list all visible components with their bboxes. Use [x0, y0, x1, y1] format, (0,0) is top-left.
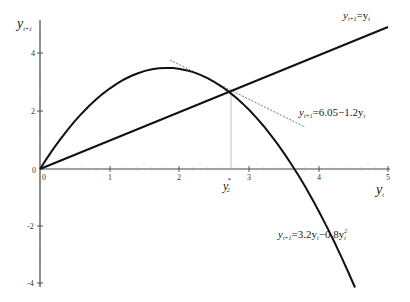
x-tick-4: 4: [317, 173, 321, 182]
x-tick-3: 3: [247, 173, 251, 182]
y-tick-2: 2: [31, 107, 35, 116]
y-tick-neg2: -2: [27, 222, 34, 231]
x-tick-5: 5: [386, 173, 390, 182]
fixed-point-label: y*2: [222, 176, 231, 193]
y-tick-4: 4: [31, 49, 35, 58]
map-equation: yt+1=3.2yt−0.8y2t: [277, 228, 347, 241]
x-tick-1: 1: [108, 173, 112, 182]
identity-line: [40, 27, 388, 169]
x-tick-0: 0: [42, 173, 46, 182]
x-axis-label: yt: [374, 182, 384, 198]
y-axis-label: yt+1: [15, 16, 32, 32]
x-tick-2: 2: [177, 173, 181, 182]
cobweb-chart: 0 0 1 2 3 4 5 4 2 -2 -4 yt+1 yt y*2 yt+1…: [0, 0, 410, 302]
y-tick-neg4: -4: [27, 279, 34, 288]
map-curve: [40, 68, 355, 288]
major-ticks: [37, 53, 388, 283]
identity-equation: yt+1=yt: [342, 9, 370, 22]
y-tick-0: 0: [32, 166, 36, 175]
tangent-equation: yt+1=6.05−1.2yt: [298, 106, 366, 119]
